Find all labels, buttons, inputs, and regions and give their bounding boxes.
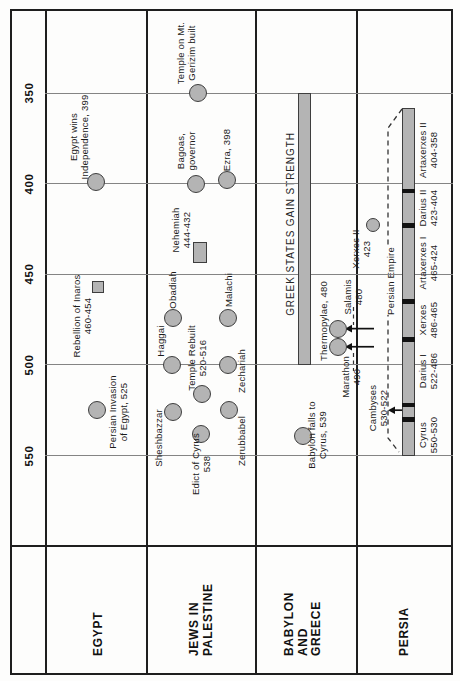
invasion-arrowhead bbox=[388, 406, 395, 414]
king-label: Artaxerxes II 404-358 bbox=[418, 122, 439, 178]
axis-tick-label: 400 bbox=[24, 173, 35, 194]
event-marker bbox=[218, 171, 236, 189]
row-label: PERSIA bbox=[398, 526, 412, 656]
row-label: JEWS IN PALESTINE bbox=[188, 526, 215, 656]
event-label: Temple Rebuilt 520-516 bbox=[187, 325, 208, 391]
greek-strength-bar bbox=[298, 93, 311, 365]
king-label: Cambyses 530-522 bbox=[368, 385, 389, 431]
king-reign-divider-486 bbox=[402, 337, 415, 342]
axis-tick-label: 550 bbox=[24, 445, 35, 466]
king-reign-divider-465 bbox=[402, 299, 415, 304]
axis-tick-label: 500 bbox=[24, 354, 35, 375]
king-label: Darius II 423-404 bbox=[418, 189, 439, 226]
gridline-400 bbox=[45, 183, 453, 184]
king-reign-divider-423 bbox=[402, 223, 415, 228]
king-label: Xerxes II 423 bbox=[351, 229, 372, 268]
event-label: Bagoas, governor bbox=[176, 131, 197, 170]
king-reign-divider-404 bbox=[402, 189, 415, 194]
event-marker bbox=[329, 320, 347, 338]
event-label: Salamis 480 bbox=[343, 279, 364, 314]
event-marker bbox=[164, 403, 182, 421]
event-label: Malachi bbox=[224, 273, 235, 307]
event-marker bbox=[187, 175, 205, 193]
event-label: Obadiah bbox=[168, 271, 179, 308]
event-label: Temple on Mt. Gerizim built bbox=[176, 22, 197, 84]
king-label: Artaxerxes I 465-424 bbox=[418, 236, 439, 289]
axis-tick-label: 350 bbox=[24, 83, 35, 104]
event-label: Rebellion of Inaros 460-454 bbox=[72, 274, 93, 357]
gridline-550 bbox=[45, 455, 453, 456]
row-label: BABYLON AND GREECE bbox=[283, 526, 324, 656]
event-label: Edict of Cyrus 538 bbox=[191, 433, 212, 495]
event-label: Haggai bbox=[156, 325, 167, 356]
event-label: Sheshbazzar bbox=[154, 409, 165, 467]
event-label: Zechariah bbox=[237, 349, 248, 393]
event-marker bbox=[92, 281, 105, 294]
persian-empire-label: Persian Empire bbox=[385, 247, 398, 315]
event-label: Ezra, 398 bbox=[222, 129, 233, 171]
axis-tick-label: 450 bbox=[24, 264, 35, 285]
event-label: Nehemiah 444-432 bbox=[171, 208, 192, 253]
king-label: Cyrus 550-530 bbox=[418, 417, 439, 453]
king-reign-divider-530 bbox=[402, 417, 415, 422]
gridline-450 bbox=[45, 274, 453, 275]
event-marker bbox=[219, 309, 237, 327]
king-label: Darius I 522-486 bbox=[418, 353, 439, 389]
event-marker bbox=[87, 173, 105, 191]
event-marker bbox=[189, 84, 207, 102]
greek-strength-bar-label: GREEK STATES GAIN STRENGTH bbox=[286, 132, 297, 316]
event-label: Persian Invasion of Egypt, 525 bbox=[108, 375, 129, 448]
event-marker bbox=[164, 309, 182, 327]
event-marker bbox=[219, 356, 237, 374]
event-label: Egypt wins Independence, 399 bbox=[69, 95, 90, 180]
king-reign-divider-522 bbox=[402, 403, 415, 408]
gridline-350 bbox=[45, 93, 453, 94]
event-marker bbox=[329, 338, 347, 356]
timeline-chart: GREEK STATES GAIN STRENGTH Persian Empir… bbox=[0, 0, 460, 681]
event-label: Marathon 490 bbox=[341, 356, 362, 398]
event-label: Zerubbabel bbox=[237, 416, 248, 466]
event-marker bbox=[163, 356, 181, 374]
event-label: Thermopylae, 480 bbox=[319, 281, 330, 361]
king-label: Xerxes 486-465 bbox=[418, 302, 439, 338]
event-marker bbox=[193, 242, 207, 264]
event-label: Babylon falls to Cyrus, 539 bbox=[307, 401, 328, 469]
gridline-500 bbox=[45, 364, 453, 365]
row-label: EGYPT bbox=[92, 526, 106, 656]
